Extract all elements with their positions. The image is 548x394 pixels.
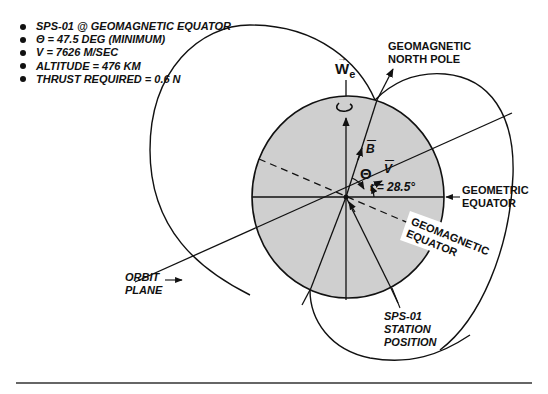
geometric-equator-label: GEOMETRIC EQUATOR [462,184,529,210]
bullet-icon [20,37,26,43]
vector-arrow-icon: → [337,52,347,63]
spec-item: SPS-01 @ GEOMAGNETIC EQUATOR [18,20,231,33]
spec-item: THRUST REQUIRED = 0.6 N [18,73,231,86]
geomagnetic-north-pole-label: GEOMAGNETIC NORTH POLE [388,40,471,66]
orbit-geometry-diagram: SPS-01 @ GEOMAGNETIC EQUATOR Θ = 47.5 DE… [0,0,548,394]
bullet-icon [20,24,26,30]
spec-list: SPS-01 @ GEOMAGNETIC EQUATOR Θ = 47.5 DE… [18,20,231,86]
spec-item: ALTITUDE = 476 KM [18,60,231,73]
velocity-symbol: —V [384,162,392,176]
magnetic-field-symbol: —B [366,142,375,156]
inclination-label: ι = 28.5° [370,180,415,194]
bullet-icon [20,50,26,56]
spec-item: Θ = 47.5 DEG (MINIMUM) [18,33,231,46]
earth-rotation-symbol: →We [335,60,355,80]
bullet-icon [20,76,26,82]
vector-bar-icon: — [385,155,394,165]
orbit-plane-label: ORBIT PLANE [125,271,162,297]
vector-bar-icon: — [367,135,376,145]
bullet-icon [20,63,26,69]
station-position-label: SPS-01 STATION POSITION [384,310,437,349]
spec-item: V = 7626 M/SEC [18,46,231,59]
